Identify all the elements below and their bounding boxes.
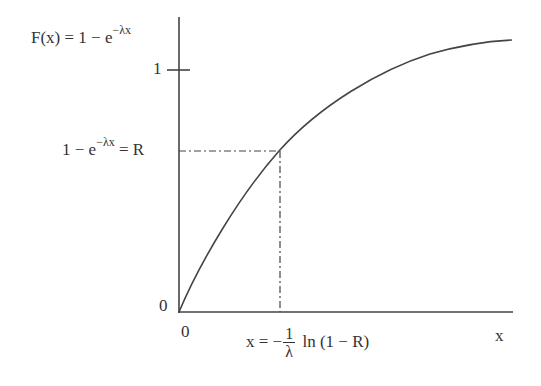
r-level-exponent: −λx: [96, 135, 115, 149]
y-tick-zero-label: 0: [159, 296, 168, 316]
y-axis-label: F(x) = 1 − e−λx: [31, 28, 131, 48]
x-solution-prefix: x = −: [246, 332, 282, 351]
x-axis-label: x: [495, 326, 504, 346]
r-level-suffix: = R: [115, 140, 144, 159]
x-tick-zero-label: 0: [181, 322, 190, 342]
y-axis-label-text: F(x) = 1 − e: [31, 28, 113, 47]
y-tick-one-label: 1: [153, 59, 162, 79]
r-level-label-text: 1 − e: [62, 140, 96, 159]
fraction-denominator: λ: [283, 343, 295, 360]
x-solution-label: x = −1λ ln (1 − R): [246, 326, 369, 360]
r-level-label: 1 − e−λx = R: [62, 140, 144, 160]
y-axis-label-exponent: −λx: [113, 23, 132, 37]
x-solution-fraction: 1λ: [283, 326, 295, 360]
fraction-numerator: 1: [283, 326, 295, 343]
cdf-curve: [179, 40, 512, 312]
x-solution-suffix: ln (1 − R): [298, 332, 369, 351]
